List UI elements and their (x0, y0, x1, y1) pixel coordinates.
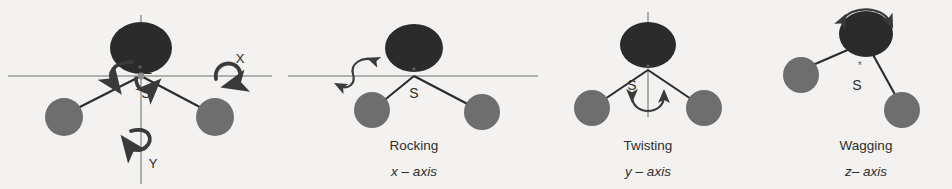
small-atom-left (45, 98, 83, 136)
rocking-sulfur-label: S (409, 85, 418, 101)
wagging-axis-caption: z– axis (844, 164, 887, 179)
wagging-title: Wagging (840, 138, 893, 153)
y-axis-label: Y (149, 156, 158, 171)
wagging-center-star: * (858, 59, 863, 71)
figure-canvas: * S Z Y X * S Rocking (0, 0, 952, 189)
small-atom-right (196, 98, 234, 136)
x-axis-label: X (236, 51, 245, 66)
rocking-axis-caption: x – axis (390, 164, 437, 179)
twisting-small-atom-right (686, 90, 722, 126)
sulfur-label: S (141, 85, 150, 101)
wagging-small-atom-left (783, 57, 819, 93)
center-star: * (138, 63, 143, 75)
rocking-center-star: * (412, 65, 417, 77)
twisting-center-star: * (646, 62, 651, 74)
vibrational-modes-figure: * S Z Y X * S Rocking (0, 0, 952, 189)
rocking-small-atom-right (464, 94, 500, 130)
twisting-sulfur-label: S (627, 77, 636, 93)
wagging-large-atom (839, 11, 893, 57)
z-axis-label: Z (144, 62, 152, 77)
twisting-small-atom-left (574, 90, 610, 126)
twisting-title: Twisting (624, 138, 673, 153)
twisting-axis-caption: y – axis (624, 164, 671, 179)
wagging-sulfur-label: S (852, 77, 861, 93)
rocking-title: Rocking (390, 138, 439, 153)
wagging-small-atom-right (884, 92, 920, 128)
rocking-small-atom-left (354, 92, 390, 128)
